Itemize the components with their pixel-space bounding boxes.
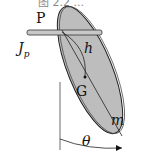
pendulum-diagram	[0, 0, 144, 164]
mass-label: m	[111, 112, 124, 128]
inertia-label: Jp	[18, 40, 29, 59]
distance-label: h	[84, 40, 93, 56]
pivot-label: P	[36, 10, 45, 26]
angle-label: θ	[82, 133, 90, 149]
center-of-mass-dot	[84, 76, 87, 79]
center-label: G	[76, 83, 87, 99]
